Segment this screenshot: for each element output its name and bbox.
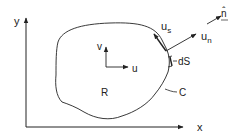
diagram-canvas: y x R C v u us un n̂ dS xyxy=(0,0,240,138)
y-axis-label: y xyxy=(14,15,20,27)
boundary-label-leader xyxy=(165,89,177,92)
tangent-label-sub: s xyxy=(167,26,171,35)
axes xyxy=(26,18,183,127)
normal-label: un xyxy=(201,30,212,45)
unit-normal-label: n̂ xyxy=(221,6,227,19)
normal-vector-arrow xyxy=(166,34,196,51)
element-label: dS xyxy=(178,56,191,67)
x-axis-label: x xyxy=(197,121,203,133)
boundary-diagram: y x R C v u us un n̂ dS xyxy=(0,0,240,138)
tangent-label: us xyxy=(161,20,171,35)
unit-normal-arrow xyxy=(207,16,221,24)
region-label: R xyxy=(101,87,108,98)
boundary-label: C xyxy=(179,87,186,98)
region-boundary-curve xyxy=(56,23,170,119)
interior-u-label: u xyxy=(132,63,138,74)
interior-v-label: v xyxy=(97,41,102,52)
normal-label-sub: n xyxy=(207,36,211,45)
